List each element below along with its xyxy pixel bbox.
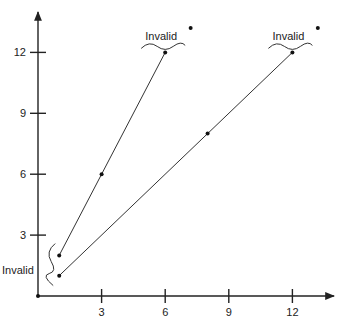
y-tick-label: 9 <box>20 107 26 119</box>
data-point <box>57 274 61 278</box>
origin-dot <box>36 294 40 298</box>
invalid-brace <box>46 244 55 286</box>
isolated-point <box>316 26 320 30</box>
series-line-b <box>59 52 292 275</box>
invalid-label: Invalid <box>2 264 34 276</box>
x-tick-label: 9 <box>226 306 232 318</box>
y-tick-label: 3 <box>20 229 26 241</box>
invalid-label: Invalid <box>273 30 305 42</box>
y-tick-label: 6 <box>20 168 26 180</box>
data-point <box>100 172 104 176</box>
x-tick-label: 3 <box>99 306 105 318</box>
invalid-label: Invalid <box>145 30 177 42</box>
y-tick-label: 12 <box>14 46 26 58</box>
invalid-brace <box>268 43 312 49</box>
isolated-point <box>189 26 193 30</box>
series-lines <box>59 52 292 275</box>
invalid-brace <box>141 43 185 49</box>
data-point <box>206 132 210 136</box>
x-tick-label: 12 <box>286 306 298 318</box>
data-point <box>163 50 167 54</box>
data-point <box>290 50 294 54</box>
data-point <box>57 253 61 257</box>
x-tick-label: 6 <box>162 306 168 318</box>
chart: 3691236912 InvalidInvalidInvalid <box>0 0 344 330</box>
